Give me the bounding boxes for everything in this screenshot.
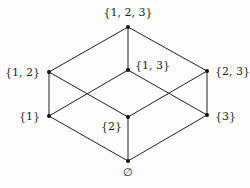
edge-n13-n1 (49, 70, 128, 116)
hasse-diagram: {1, 2, 3}{1, 2}{1, 3}{2, 3}{1}{2}{3}∅ (0, 0, 250, 188)
node-label-n1: {1} (19, 110, 40, 123)
node-label-n3: {3} (215, 110, 236, 123)
edge-n23-n2 (128, 71, 207, 117)
edge-n13-n3 (128, 70, 207, 115)
node-n123 (126, 25, 130, 29)
node-n3 (205, 113, 209, 117)
node-label-n12: {1, 2} (5, 66, 40, 79)
node-label-n13: {1, 3} (135, 59, 170, 72)
node-n23 (205, 69, 209, 73)
node-n2 (126, 115, 130, 119)
node-n13 (126, 68, 130, 72)
edge-n12-n2 (49, 72, 128, 117)
edge-n3-n0 (128, 115, 207, 161)
node-n1 (47, 114, 51, 118)
node-label-n0: ∅ (123, 166, 133, 179)
node-label-n123: {1, 2, 3} (104, 6, 153, 19)
edge-n123-n12 (49, 27, 128, 72)
node-n12 (47, 70, 51, 74)
node-label-n2: {2} (101, 120, 122, 133)
node-label-n23: {2, 3} (215, 65, 250, 78)
node-n0 (126, 159, 130, 163)
diagram-canvas: {1, 2, 3}{1, 2}{1, 3}{2, 3}{1}{2}{3}∅ (0, 0, 250, 188)
